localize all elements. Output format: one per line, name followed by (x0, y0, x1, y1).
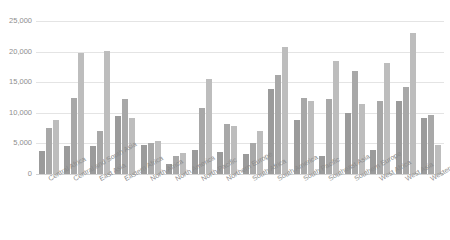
y-tick-label: 0 (0, 170, 32, 178)
x-tick-label: South Pacific (302, 176, 306, 183)
bar-group (317, 21, 343, 174)
x-tick-label: Central Africa (47, 176, 51, 183)
bar-group (215, 21, 241, 174)
bar (257, 131, 263, 174)
bar (231, 126, 237, 174)
bar-group (419, 21, 445, 174)
x-tick-label: South Africa (251, 176, 255, 183)
bar-group (368, 21, 394, 174)
bar (53, 120, 59, 174)
x-tick-label: Eastern Africa (123, 176, 127, 183)
bar-groups (36, 21, 444, 174)
y-tick-label: 15,000 (0, 78, 32, 86)
y-tick-label: 5,000 (0, 139, 32, 147)
x-axis-labels: Central AfricaCentral and South AsiaEast… (36, 176, 444, 240)
x-tick-label: Western Europe (429, 176, 433, 183)
x-tick-label: North America (174, 176, 178, 183)
bar-group (342, 21, 368, 174)
x-tick-label: West Asia (404, 176, 408, 183)
bar (410, 33, 416, 174)
y-tick-label: 25,000 (0, 17, 32, 25)
bar-group (36, 21, 62, 174)
bar-group (164, 21, 190, 174)
bar-chart: 05,00010,00015,00020,00025,000 Central A… (0, 0, 450, 240)
plot-area (36, 21, 444, 174)
bar-group (138, 21, 164, 174)
x-tick-label: West Africa (378, 176, 382, 183)
bar-group (62, 21, 88, 174)
x-tick-label: North Pacific (200, 176, 204, 183)
y-tick-label: 10,000 (0, 109, 32, 117)
x-tick-label: North Africa (149, 176, 153, 183)
bar (39, 151, 45, 174)
x-tick-label: Northern Europe (225, 176, 229, 183)
x-tick-label: East Asia (98, 176, 102, 183)
chart-title-cutoff (6, 0, 126, 5)
bar (268, 89, 274, 174)
bar-group (87, 21, 113, 174)
bar (282, 47, 288, 174)
x-tick-label: South America (276, 176, 280, 183)
bar-group (291, 21, 317, 174)
bar-group (189, 21, 215, 174)
bar-group (240, 21, 266, 174)
x-tick-label: Southern Europe (353, 176, 357, 183)
y-tick-label: 20,000 (0, 48, 32, 56)
x-tick-label: Central and South Asia (72, 176, 76, 183)
bar (46, 128, 52, 174)
x-tick-label: Southeast Asia (327, 176, 331, 183)
